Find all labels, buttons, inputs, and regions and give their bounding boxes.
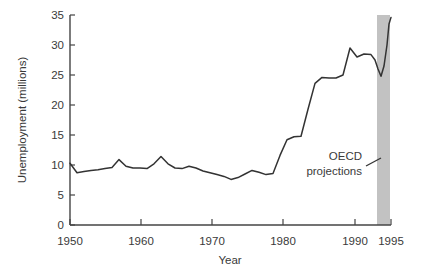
x-axis-ticks (70, 219, 391, 225)
x-tick-label-1950: 1950 (57, 235, 83, 247)
oecd-annotation-line2: projections (306, 165, 362, 177)
unemployment-line-chart: 0 5 10 15 20 25 30 35 1950 1960 1970 198… (0, 0, 426, 274)
x-tick-label-1980: 1980 (270, 235, 296, 247)
y-tick-label-5: 5 (58, 189, 64, 201)
y-tick-label-30: 30 (51, 39, 64, 51)
y-tick-label-0: 0 (58, 219, 64, 231)
y-tick-label-10: 10 (51, 159, 64, 171)
y-tick-label-20: 20 (51, 99, 64, 111)
x-axis-title: Year (218, 254, 241, 266)
y-axis-ticks (70, 15, 75, 225)
y-tick-label-15: 15 (51, 129, 64, 141)
x-tick-label-1995: 1995 (378, 235, 404, 247)
chart-container: 0 5 10 15 20 25 30 35 1950 1960 1970 198… (0, 0, 426, 274)
y-axis-title: Unemployment (millions) (16, 57, 28, 184)
x-tick-label-1990: 1990 (342, 235, 368, 247)
y-tick-label-25: 25 (51, 69, 64, 81)
x-tick-label-1970: 1970 (199, 235, 225, 247)
oecd-annotation-line1: OECD (329, 150, 362, 162)
x-tick-label-1960: 1960 (128, 235, 154, 247)
projection-band (377, 15, 390, 225)
y-tick-label-35: 35 (51, 9, 64, 21)
